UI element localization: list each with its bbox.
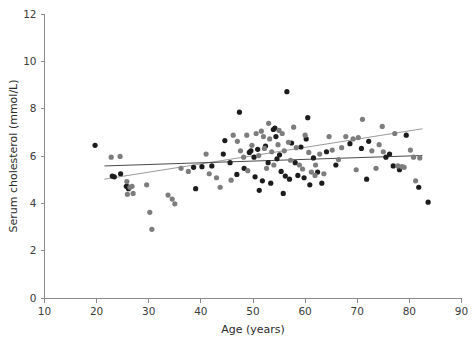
data-point-group_gray xyxy=(282,148,287,153)
data-point-group_dark xyxy=(298,144,303,149)
data-point-group_dark xyxy=(248,148,253,153)
data-point-group_dark xyxy=(307,182,312,187)
data-point-group_gray xyxy=(214,175,219,180)
data-point-group_gray xyxy=(207,171,212,176)
data-point-group_gray xyxy=(262,146,267,151)
data-point-group_gray xyxy=(256,153,261,158)
scatter-plot-figure: 024681012 102030405060708090 Age (years)… xyxy=(0,0,472,348)
data-point-group_gray xyxy=(241,155,246,160)
data-point-group_dark xyxy=(227,160,232,165)
data-point-group_gray xyxy=(244,133,249,138)
y-axis-ticks: 024681012 xyxy=(23,8,44,304)
y-tick-label-0: 0 xyxy=(30,292,37,304)
data-point-group_gray xyxy=(269,149,274,154)
data-point-group_dark xyxy=(255,147,260,152)
data-point-group_dark xyxy=(324,149,329,154)
data-point-group_gray xyxy=(343,134,348,139)
data-point-group_dark xyxy=(209,163,214,168)
data-point-group_gray xyxy=(360,117,365,122)
data-point-group_gray xyxy=(288,158,293,163)
data-point-group_gray xyxy=(413,178,418,183)
data-point-group_gray xyxy=(261,134,266,139)
data-point-group_dark xyxy=(281,191,286,196)
data-point-group_gray xyxy=(267,136,272,141)
data-point-group_gray xyxy=(380,124,385,129)
data-point-group_gray xyxy=(149,227,154,232)
data-point-group_dark xyxy=(222,138,227,143)
data-point-group_gray xyxy=(172,201,177,206)
data-point-group_dark xyxy=(92,143,97,148)
data-point-group_gray xyxy=(356,135,361,140)
data-point-group_dark xyxy=(221,152,226,157)
data-point-group_gray xyxy=(170,196,175,201)
data-point-group_gray xyxy=(117,154,122,159)
data-point-group_gray xyxy=(294,145,299,150)
data-point-group_gray xyxy=(178,166,183,171)
x-tick-label-80: 80 xyxy=(403,305,416,317)
data-point-group_gray xyxy=(271,162,276,167)
data-point-group_gray xyxy=(417,155,422,160)
x-tick-label-40: 40 xyxy=(194,305,207,317)
data-point-group_gray xyxy=(109,155,114,160)
data-point-group_gray xyxy=(144,182,149,187)
data-point-group_gray xyxy=(377,142,382,147)
data-point-group_dark xyxy=(387,152,392,157)
data-point-group_gray xyxy=(245,168,250,173)
data-point-group_dark xyxy=(284,89,289,94)
data-point-group_dark xyxy=(279,169,284,174)
y-tick-label-8: 8 xyxy=(30,102,37,114)
data-point-group_gray xyxy=(264,166,269,171)
data-point-group_dark xyxy=(416,185,421,190)
x-tick-label-90: 90 xyxy=(455,305,468,317)
data-point-group_dark xyxy=(273,134,278,139)
data-point-group_gray xyxy=(373,166,378,171)
data-point-group_gray xyxy=(381,149,386,154)
data-point-group_dark xyxy=(404,133,409,138)
x-axis-title: Age (years) xyxy=(221,323,285,336)
data-point-group_gray xyxy=(186,169,191,174)
data-point-group_dark xyxy=(301,175,306,180)
data-point-group_dark xyxy=(118,171,123,176)
x-tick-label-50: 50 xyxy=(246,305,259,317)
x-axis-ticks: 102030405060708090 xyxy=(38,298,468,317)
x-axis-group: 102030405060708090 xyxy=(38,298,468,317)
data-point-group_gray xyxy=(312,173,317,178)
data-point-group_dark xyxy=(426,200,431,205)
x-tick-label-60: 60 xyxy=(298,305,311,317)
data-point-group_gray xyxy=(339,145,344,150)
data-point-group_gray xyxy=(129,184,134,189)
data-point-group_dark xyxy=(191,165,196,170)
x-tick-label-30: 30 xyxy=(142,305,155,317)
data-point-group_gray xyxy=(354,167,359,172)
data-point-group_gray xyxy=(402,165,407,170)
y-tick-label-4: 4 xyxy=(30,197,37,209)
data-point-group_dark xyxy=(311,155,316,160)
data-point-group_gray xyxy=(313,162,318,167)
data-point-group_gray xyxy=(254,131,259,136)
data-point-group_gray xyxy=(124,179,129,184)
data-point-group_gray xyxy=(286,140,291,145)
data-point-group_dark xyxy=(193,186,198,191)
data-point-group_dark xyxy=(257,188,262,193)
data-point-group_gray xyxy=(411,155,416,160)
data-point-group_dark xyxy=(252,174,257,179)
data-point-group_dark xyxy=(287,177,292,182)
data-point-group_dark xyxy=(234,172,239,177)
x-tick-label-20: 20 xyxy=(90,305,103,317)
y-tick-label-12: 12 xyxy=(23,8,36,20)
data-point-group_gray xyxy=(218,185,223,190)
data-point-group_dark xyxy=(266,160,271,165)
data-point-group_gray xyxy=(259,129,264,134)
data-point-group_dark xyxy=(295,173,300,178)
data-point-group_gray xyxy=(321,171,326,176)
data-point-group_dark xyxy=(364,177,369,182)
data-point-group_gray xyxy=(369,148,374,153)
data-point-group_dark xyxy=(366,139,371,144)
data-point-group_gray xyxy=(392,131,397,136)
data-point-group_gray xyxy=(317,152,322,157)
data-point-group_gray xyxy=(300,166,305,171)
data-point-group_gray xyxy=(280,131,285,136)
data-point-group_dark xyxy=(268,181,273,186)
y-axis-group: 024681012 xyxy=(23,8,44,304)
data-point-group_dark xyxy=(237,110,242,115)
